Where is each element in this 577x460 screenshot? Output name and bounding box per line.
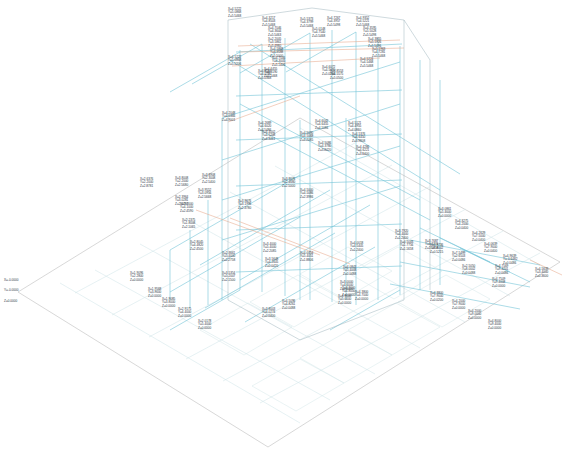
node-label: X=4.8564Y=4.0280Z=5.0368 xyxy=(258,70,271,80)
node-label: X=4.5000Y=4.5086Z=2.3986 xyxy=(300,189,313,199)
node-coord-z: Z=0.0000 xyxy=(130,279,143,282)
node-label: X=2.5050Y=8.0002Z=0.0488 xyxy=(462,265,475,275)
origin-z: Z=0.0000 xyxy=(4,300,18,303)
node-label: X=4.4002Y=4.5208Z=4.3461 xyxy=(262,131,275,141)
node-label: X=3.8908Y=2.3008Z=2.5400 xyxy=(202,174,215,184)
node-coord-z: Z=0.0486 xyxy=(452,259,465,262)
node-coord-z: Z=4.1086 xyxy=(315,127,328,130)
node-label: X=4.5090Y=4.5068Z=4.2085 xyxy=(300,132,313,142)
node-coord-z: Z=0.0400 xyxy=(455,227,468,230)
node-coord-z: Z=4.3461 xyxy=(262,138,275,141)
node-label: X=3.8003Y=4.0274Z=0.0400 xyxy=(262,308,275,318)
node-label: X=4.7046Y=4.3644Z=5.5463 xyxy=(268,27,281,37)
node-label: X=4.7569Y=9.4201Z=0.0486 xyxy=(495,265,508,275)
node-label: X=4.5224Y=4.5468Z=5.5468 xyxy=(360,58,373,68)
node-label: X=2.8045Y=4.4820Z=2.4500 xyxy=(190,241,203,251)
node-label: X=4.3800Y=7.9000Z=0.0200 xyxy=(430,292,443,302)
node-label: X=4.5096Y=4.8261Z=0.0488 xyxy=(282,300,295,310)
node-coord-z: Z=0.0000 xyxy=(148,295,161,298)
node-label: X=4.0843Y=5.4008Z=0.0488 xyxy=(343,266,356,276)
node-coord-z: Z=0.0488 xyxy=(462,272,475,275)
node-label: X=4.0639Y=7.9000Z=0.0400 xyxy=(484,243,497,253)
node-coord-z: Z=5.5468 xyxy=(372,55,385,58)
node-coord-z: Z=0.0200 xyxy=(430,299,443,302)
node-coord-z: Z=5.5206 xyxy=(228,63,241,66)
node-coord-z: Z=0.0000 xyxy=(492,285,505,288)
node-label: X=1.9096Y=2.2800Z=0.0000 xyxy=(130,272,143,282)
node-label: X=4.3800Y=4.7000Z=0.0000 xyxy=(355,291,368,301)
ground-plane-boundary xyxy=(18,118,560,447)
origin-y: Y=-0.0000 xyxy=(4,289,18,292)
origin-node-label: X=-0.0000 Y=-0.0000 Z=0.0000 xyxy=(4,272,18,310)
node-coord-z: Z=5.5468 xyxy=(228,15,241,18)
node-coord-z: Z=2.8781 xyxy=(140,185,153,188)
node-coord-z: Z=5.0500 xyxy=(330,77,343,80)
accent-members xyxy=(196,40,562,275)
node-coord-z: Z=2.4500 xyxy=(190,248,203,251)
node-coord-z: Z=2.5000 xyxy=(282,185,295,188)
node-coord-z: Z=2.5400 xyxy=(202,181,215,184)
node-coord-z: Z=4.2085 xyxy=(300,139,313,142)
node-label: X=4.5639Y=3.4000Z=0.3600 xyxy=(535,268,548,278)
node-label: X=4.5222Y=5.0868Z=5.5468 xyxy=(228,8,241,18)
node-label: X=5.0148Y=4.7540Z=5.5468 xyxy=(312,28,325,38)
node-coord-z: Z=0.0486 xyxy=(495,272,508,275)
node-label: X=3.5648Y=4.2605Z=0.0420 xyxy=(265,258,278,268)
node-coord-z: Z=1.2400 xyxy=(350,249,363,252)
node-coord-z: Z=5.5468 xyxy=(360,65,373,68)
node-coord-z: Z=3.9808 xyxy=(352,140,365,143)
node-coord-z: Z=0.5215 xyxy=(430,251,443,254)
node-coord-z: Z=2.2758 xyxy=(222,259,235,262)
node-coord-z: Z=5.5468 xyxy=(312,35,325,38)
node-label: X=3.8008Y=2.2000Z=2.5680 xyxy=(175,177,188,187)
node-label: X=4.5086Y=4.3780Z=3.8420 xyxy=(318,142,331,152)
node-coord-z: Z=5.0368 xyxy=(258,77,271,80)
node-label: X=4.7267Y=4.3957Z=5.5498 xyxy=(327,17,340,27)
node-label: X=4.5043Y=1.7756Z=1.1658 xyxy=(400,241,413,251)
node-label: X=3.9076Y=2.4680Z=2.5000 xyxy=(282,178,295,188)
node-coord-z: Z=0.3600 xyxy=(535,275,548,278)
node-label: X=4.6042Y=4.6455Z=4.1086 xyxy=(315,120,328,130)
node-label: X=4.3000Y=5.0000Z=0.0000 xyxy=(338,295,351,305)
node-label: X=3.7920Y=4.4000Z=1.2400 xyxy=(395,230,408,240)
node-label: X=3.4000Y=5.4000Z=2.2085 xyxy=(263,243,276,253)
node-label: X=4.7046Y=4.3005Z=5.1406 xyxy=(272,57,285,67)
node-label: X=1.9085Y=3.8000Z=0.0000 xyxy=(162,298,175,308)
node-coord-z: Z=2.3780 xyxy=(238,207,251,210)
node-coord-z: Z=2.1065 xyxy=(182,226,195,229)
node-label: X=4.2048Y=4.0366Z=4.9001 xyxy=(222,112,235,122)
node-label: X=4.2000Y=9.0000Z=0.0000 xyxy=(468,310,481,320)
node-label: X=4.2629Y=7.5000Z=0.0400 xyxy=(472,232,485,242)
node-label: X=4.0018Y=4.5405Z=1.2400 xyxy=(350,242,363,252)
node-label: X=4.4286Y=4.6221Z=3.6400 xyxy=(356,146,369,156)
node-coord-z: Z=2.1500 xyxy=(222,279,235,282)
node-coord-z: Z=4.9001 xyxy=(222,119,235,122)
node-label: X=4.3275Y=4.2000Z=0.0400 xyxy=(455,220,468,230)
node-label: X=2.7000Y=4.1000Z=2.4590 xyxy=(180,203,193,213)
node-label: X=1.9568Y=3.9000Z=0.0000 xyxy=(148,288,161,298)
node-coord-z: Z=2.3986 xyxy=(300,196,313,199)
node-label: X=2.9175Y=4.4000Z=0.0000 xyxy=(178,308,191,318)
node-label: X=4.7509Y=9.4008Z=0.0000 xyxy=(492,278,505,288)
node-label: X=2.3661Y=5.4000Z=2.2758 xyxy=(222,252,235,262)
node-coord-z: Z=0.0000 xyxy=(178,315,191,318)
node-label: X=3.0861Y=5.4000Z=0.0000 xyxy=(438,208,451,218)
node-coord-z: Z=2.4590 xyxy=(180,210,193,213)
node-coord-z: Z=3.8420 xyxy=(318,149,331,152)
node-label: X=4.8000Y=9.4000Z=0.0000 xyxy=(488,320,501,330)
node-label: X=4.5121Y=4.4955Z=4.0860 xyxy=(348,122,361,132)
node-coord-z: Z=0.0000 xyxy=(452,307,465,310)
viewport-3d[interactable]: X=4.5222Y=5.0868Z=5.5468X=4.3217Y=4.8503… xyxy=(0,0,577,460)
node-label: X=4.5222Y=5.0868Z=5.5206 xyxy=(228,56,241,66)
node-label: X=2.0178Y=5.4000Z=0.0000 xyxy=(198,320,211,330)
node-coord-z: Z=5.5498 xyxy=(327,24,340,27)
node-coord-z: Z=0.0488 xyxy=(282,307,295,310)
node-coord-z: Z=0.0420 xyxy=(265,265,278,268)
node-coord-z: Z=0.0000 xyxy=(198,327,211,330)
node-coord-z: Z=1.1658 xyxy=(400,248,413,251)
node-coord-z: Z=0.0400 xyxy=(262,315,275,318)
node-coord-z: Z=0.0000 xyxy=(468,317,481,320)
node-label: X=2.6376Y=2.2000Z=2.8781 xyxy=(140,178,153,188)
node-label: X=5.1963Y=4.7281Z=5.5468 xyxy=(372,48,385,58)
node-coord-z: Z=0.0000 xyxy=(338,302,351,305)
